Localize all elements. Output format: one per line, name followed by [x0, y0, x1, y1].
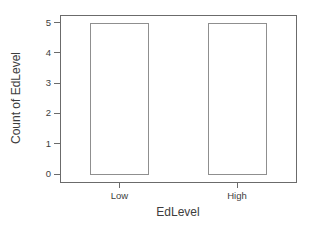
y-axis-tick-label: 2: [22, 107, 51, 119]
y-axis-tick: [54, 52, 60, 53]
y-axis-tick-label: 1: [22, 138, 51, 150]
bar-high: [208, 23, 267, 176]
y-axis-tick: [54, 143, 60, 144]
y-axis-tick-label: 0: [22, 168, 51, 180]
y-axis-title: Count of EdLevel: [9, 18, 23, 178]
x-axis-tick: [237, 183, 238, 188]
y-axis-tick: [54, 83, 60, 84]
y-axis-tick-label: 4: [22, 47, 51, 59]
x-axis-title: EdLevel: [98, 205, 258, 219]
y-axis-tick: [54, 22, 60, 23]
bar-chart-figure: Count of EdLevel EdLevel 012345LowHigh: [0, 0, 315, 233]
y-axis-tick: [54, 174, 60, 175]
x-axis-tick-label: Low: [89, 190, 149, 202]
y-axis-tick: [54, 113, 60, 114]
y-axis-tick-label: 5: [22, 17, 51, 29]
x-axis-tick: [119, 183, 120, 188]
y-axis-tick-label: 3: [22, 77, 51, 89]
bar-low: [90, 23, 149, 176]
x-axis-tick-label: High: [207, 190, 267, 202]
